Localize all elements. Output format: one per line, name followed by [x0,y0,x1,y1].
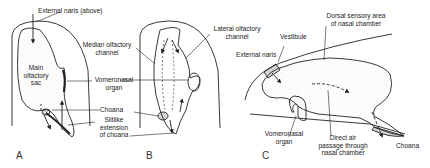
panel-c-drawing [245,26,405,137]
label-lateral-olfactory-channel: Lateral olfactory channel [206,25,268,40]
label-line: olfactory [20,72,52,80]
label-line: of nasal chamber [320,20,392,28]
label-line: channel [206,33,268,41]
label-line: Vomeronasal [92,76,136,84]
label-vomeronasal-organ: Vomeronasal organ [92,76,136,91]
label-line: channel [76,49,138,57]
label-line: Dorsal sensory area [320,12,392,20]
label-c-vomeronasal-organ: Vomeronasal organ [264,130,304,145]
label-line: Lateral olfactory [206,25,268,33]
panel-letter-a: A [16,150,23,161]
label-line: Direct air [314,134,372,142]
panel-letter-b: B [146,150,153,161]
label-line: organ [264,138,304,146]
label-dorsal-sensory-area: Dorsal sensory area of nasal chamber [320,12,392,27]
label-line: Vomeronasal [264,130,304,138]
label-a-external-naris: External naris (above) [38,7,103,15]
label-line: organ [92,84,136,92]
label-c-external-naris: External naris [236,51,276,59]
label-line: Main [20,64,52,72]
label-line: passage through [314,142,372,150]
label-slitlike-extension: Slitlike extension of choana [94,116,134,139]
label-line: Median olfactory [76,41,138,49]
label-choana: Choana [100,106,123,114]
label-a-main-olfactory-sac: Main olfactory sac [20,64,52,87]
label-median-olfactory-channel: Median olfactory channel [76,41,138,56]
label-vestibule: Vestibule [280,33,307,41]
label-line: nasal chamber [314,149,372,157]
label-line: of choana [94,131,134,139]
nasal-anatomy-figure: External naris (above) Main olfactory sa… [0,0,430,168]
label-line: extension [94,124,134,132]
label-c-choana: Choana [396,142,419,150]
label-line: sac [20,79,52,87]
label-direct-air-passage: Direct air passage through nasal chamber [314,134,372,157]
panel-letter-c: C [262,150,269,161]
label-line: Slitlike [94,116,134,124]
